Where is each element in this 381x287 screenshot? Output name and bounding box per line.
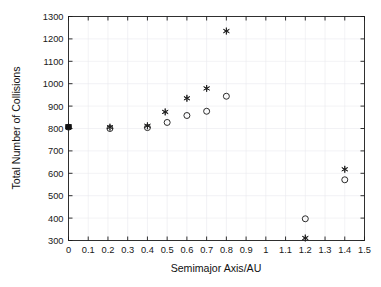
x-tick-label: 1.1 <box>279 245 292 255</box>
y-tick-label: 500 <box>48 191 64 201</box>
x-tick-label: 0 <box>66 245 71 255</box>
x-tick-label: 0.1 <box>82 245 95 255</box>
x-tick-label: 1.2 <box>299 245 312 255</box>
y-tick-label: 800 <box>48 124 64 134</box>
x-tick-label: 1.5 <box>358 245 371 255</box>
figure-container: 00.10.20.30.40.50.60.70.80.911.11.21.31.… <box>0 0 381 287</box>
y-axis-title: Total Number of Collisions <box>10 66 22 189</box>
y-tick-label: 600 <box>48 169 64 179</box>
x-tick-label: 0.5 <box>161 245 174 255</box>
y-tick-label: 300 <box>48 236 64 246</box>
x-tick-label: 0.2 <box>101 245 114 255</box>
x-tick-label: 0.6 <box>180 245 193 255</box>
x-tick-label: 0.9 <box>240 245 253 255</box>
x-tick-label: 1.3 <box>319 245 332 255</box>
y-tick-label: 1000 <box>43 79 64 89</box>
y-tick-label: 1100 <box>44 57 64 67</box>
y-tick-labels: 3004005006007008009001000110012001300 <box>43 12 64 246</box>
y-tick-label: 700 <box>48 146 64 156</box>
x-tick-label: 0.4 <box>141 245 154 255</box>
y-tick-label: 1200 <box>43 34 64 44</box>
y-tick-label: 900 <box>48 102 64 112</box>
marker-asterisk <box>342 166 348 173</box>
scatter-plot: 00.10.20.30.40.50.60.70.80.911.11.21.31.… <box>0 0 381 287</box>
marker-asterisk <box>204 85 210 92</box>
x-tick-labels: 00.10.20.30.40.50.60.70.80.911.11.21.31.… <box>66 245 371 255</box>
y-tick-label: 400 <box>48 214 64 224</box>
x-tick-label: 0.8 <box>220 245 233 255</box>
marker-asterisk <box>223 28 229 35</box>
x-tick-label: 0.3 <box>121 245 134 255</box>
x-tick-label: 1 <box>263 245 268 255</box>
x-tick-label: 0.7 <box>200 245 213 255</box>
marker-origin-filled <box>66 124 71 129</box>
x-tick-label: 1.4 <box>338 245 351 255</box>
y-tick-label: 1300 <box>43 12 64 22</box>
marker-asterisk <box>184 95 190 102</box>
x-axis-title: Semimajor Axis/AU <box>171 262 262 274</box>
